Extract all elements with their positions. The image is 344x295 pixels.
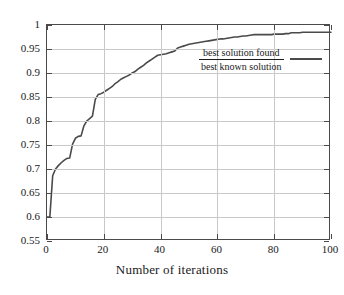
x-tick-label: 40 bbox=[154, 244, 165, 255]
x-axis-tick bbox=[274, 234, 275, 239]
legend-numerator-label: best solution found bbox=[201, 47, 282, 58]
y-tick-label: 0.8 bbox=[26, 115, 40, 126]
gridline-vertical bbox=[104, 25, 105, 239]
gridline-vertical bbox=[161, 25, 162, 239]
x-axis-tick bbox=[47, 25, 48, 30]
y-tick-label: 0.7 bbox=[26, 163, 40, 174]
gridline-horizontal bbox=[47, 121, 329, 122]
y-axis-tick-labels: 0.550.60.650.70.750.80.850.90.951 bbox=[0, 24, 42, 240]
y-axis-tick bbox=[324, 241, 329, 242]
x-axis-tick bbox=[217, 234, 218, 239]
y-axis-tick bbox=[47, 217, 52, 218]
x-tick-label: 100 bbox=[322, 244, 339, 255]
y-tick-label: 0.85 bbox=[21, 91, 40, 102]
legend-line-sample bbox=[290, 58, 322, 60]
x-axis-tick bbox=[331, 234, 332, 239]
x-axis-tick bbox=[104, 25, 105, 30]
y-axis-tick bbox=[324, 217, 329, 218]
chart-container: 0.550.60.650.70.750.80.850.90.951 020406… bbox=[0, 0, 344, 295]
x-axis-tick bbox=[161, 234, 162, 239]
x-axis-tick bbox=[161, 25, 162, 30]
y-tick-label: 0.95 bbox=[21, 43, 40, 54]
y-axis-tick bbox=[324, 25, 329, 26]
y-axis-tick bbox=[324, 97, 329, 98]
legend-entry-ratio: best solution found best known solution bbox=[199, 47, 284, 72]
gridline-horizontal bbox=[47, 97, 329, 98]
y-axis-tick bbox=[47, 73, 52, 74]
x-axis-tick bbox=[274, 25, 275, 30]
y-axis-tick bbox=[47, 97, 52, 98]
x-axis-tick bbox=[104, 234, 105, 239]
gridline-horizontal bbox=[47, 145, 329, 146]
y-tick-label: 0.55 bbox=[21, 235, 40, 246]
y-tick-label: 1 bbox=[35, 19, 41, 30]
y-tick-label: 0.6 bbox=[26, 211, 40, 222]
y-axis-tick bbox=[324, 145, 329, 146]
x-tick-label: 20 bbox=[97, 244, 108, 255]
x-tick-label: 60 bbox=[211, 244, 222, 255]
y-axis-tick bbox=[47, 169, 52, 170]
x-axis-tick bbox=[331, 25, 332, 30]
legend-fraction-bar bbox=[199, 59, 284, 60]
y-tick-label: 0.75 bbox=[21, 139, 40, 150]
y-axis-tick bbox=[324, 121, 329, 122]
x-tick-label: 80 bbox=[268, 244, 279, 255]
y-axis-tick bbox=[47, 145, 52, 146]
x-axis-tick bbox=[217, 25, 218, 30]
y-axis-tick bbox=[324, 169, 329, 170]
x-tick-label: 0 bbox=[43, 244, 49, 255]
y-axis-tick bbox=[47, 121, 52, 122]
y-tick-label: 0.65 bbox=[21, 187, 40, 198]
y-axis-tick bbox=[47, 241, 52, 242]
x-axis-title: Number of iterations bbox=[0, 262, 344, 278]
gridline-horizontal bbox=[47, 169, 329, 170]
x-axis-tick-labels: 020406080100 bbox=[46, 244, 330, 260]
y-tick-label: 0.9 bbox=[26, 67, 40, 78]
gridline-horizontal bbox=[47, 193, 329, 194]
y-axis-tick bbox=[47, 49, 52, 50]
x-axis-tick bbox=[47, 234, 48, 239]
chart-legend: best solution found best known solution bbox=[199, 44, 330, 74]
y-axis-tick bbox=[47, 193, 52, 194]
legend-denominator-label: best known solution bbox=[199, 61, 284, 72]
y-axis-tick bbox=[324, 193, 329, 194]
gridline-horizontal bbox=[47, 217, 329, 218]
